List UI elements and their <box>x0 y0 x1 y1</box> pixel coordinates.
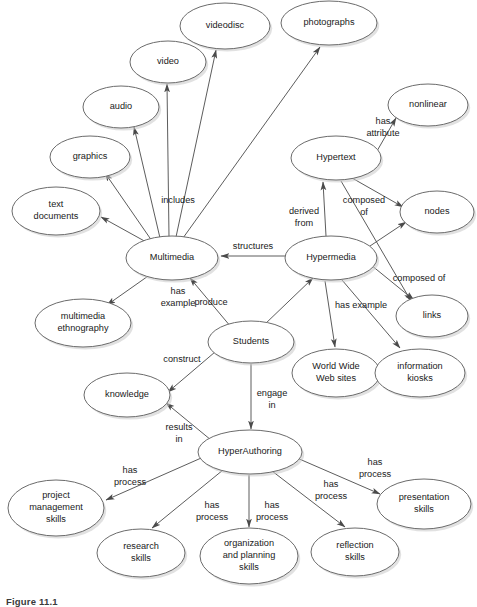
node-project-management-skills[interactable]: projectmanagementskills <box>8 480 106 539</box>
edge-multimedia-has-example-ethnography <box>107 274 151 305</box>
node-videodisc[interactable]: videodisc <box>180 3 272 52</box>
node-nodes[interactable]: nodes <box>400 191 476 236</box>
edge-label-hypermedia-derived-from-hypertext: derivedfrom <box>289 206 319 228</box>
edge-label-hypermedia-composed-of-nodes: composed of <box>393 273 446 283</box>
edge-multimedia-includes-text-documents <box>101 217 148 243</box>
edge-label-hypertext-composed-of-links: composedof <box>343 195 385 217</box>
edge-label-hyperauthoring-has-process-reflection: hasprocess <box>315 479 348 501</box>
node-hypermedia[interactable]: Hypermedia <box>285 236 379 283</box>
node-label: photographs <box>303 17 354 27</box>
node-organization-and-planning-skills[interactable]: organizationand planningskills <box>200 528 300 587</box>
edge-label-multimedia-has-example-ethnography: hasexample <box>161 286 196 308</box>
edge-label-hyperauthoring-results-in-knowledge: resultsin <box>165 422 192 444</box>
node-information-kiosks[interactable]: informationkiosks <box>375 349 467 400</box>
node-presentation-skills[interactable]: presentationskills <box>377 479 473 532</box>
edge-label-students-produce-multimedia: produce <box>194 297 227 307</box>
node-video[interactable]: video <box>130 41 208 86</box>
node-label: videodisc <box>206 20 245 30</box>
node-hypertext[interactable]: Hypertext <box>291 136 383 183</box>
node-label: knowledge <box>105 389 149 399</box>
node-label: graphics <box>73 151 108 161</box>
node-students[interactable]: Students <box>208 321 296 366</box>
edge-multimedia-includes-graphics <box>105 173 152 241</box>
edge-hypermedia-has-example-www <box>325 281 335 347</box>
edge-label-hyperauthoring-has-process-organization: hasprocess <box>256 500 289 522</box>
node-label: Hypertext <box>316 152 356 162</box>
node-graphics[interactable]: graphics <box>50 136 132 181</box>
node-multimedia-ethnography[interactable]: multimediaethnography <box>35 299 133 350</box>
node-label: Multimedia <box>150 252 195 262</box>
edge-students-produce-hypermedia <box>264 278 313 325</box>
node-nonlinear[interactable]: nonlinear <box>388 84 470 129</box>
node-label: HyperAuthoring <box>218 446 282 456</box>
node-hyperauthoring[interactable]: HyperAuthoring <box>198 430 304 477</box>
edge-multimedia-includes-video <box>167 84 169 237</box>
node-label: nonlinear <box>409 99 447 109</box>
figure-caption: Figure 11.1 <box>6 596 58 607</box>
edge-label-hyperauthoring-has-process-presentation: hasprocess <box>359 457 392 479</box>
node-multimedia[interactable]: Multimedia <box>126 236 220 283</box>
edge-label-hypermedia-structures-multimedia: structures <box>233 241 274 251</box>
node-label: links <box>423 310 442 320</box>
edge-label-hyperauthoring-has-process-research: hasprocess <box>196 500 229 522</box>
edge-label-hypermedia-has-example-www: has example <box>335 300 387 310</box>
node-knowledge[interactable]: knowledge <box>84 373 172 420</box>
node-photographs[interactable]: photographs <box>281 1 379 48</box>
node-label: Hypermedia <box>306 252 356 262</box>
node-links[interactable]: links <box>396 295 470 340</box>
edge-hypermedia-has-example-kiosks <box>342 280 400 348</box>
edge-label-multimedia-includes-audio: includes <box>161 195 195 205</box>
edge-label-students-construct-knowledge: construct <box>163 354 201 364</box>
node-label: Students <box>233 336 270 346</box>
edge-label-hyperauthoring-has-process-project: hasprocess <box>114 465 147 487</box>
edge-hypermedia-derived-from-hypertext <box>323 182 326 236</box>
node-audio[interactable]: audio <box>83 86 161 131</box>
node-reflection-skills[interactable]: reflectionskills <box>311 528 401 579</box>
edge-label-students-engage-in-hyperauthoring: engagein <box>257 388 288 410</box>
node-label: audio <box>110 101 132 111</box>
node-research-skills[interactable]: researchskills <box>97 529 187 580</box>
node-text-documents[interactable]: textdocuments <box>12 187 102 238</box>
node-label: nodes <box>424 206 449 216</box>
node-world-wide-web-sites[interactable]: World WideWeb sites <box>292 349 382 400</box>
node-label: video <box>157 56 179 66</box>
